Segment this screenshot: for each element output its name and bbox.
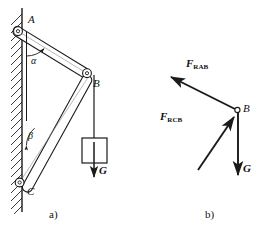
label-force-rcb: FRCB [160, 111, 182, 122]
label-weight-g-panel-a: G [99, 165, 107, 176]
caption-panel-a: a) [49, 209, 58, 220]
force-rab-arrow [171, 77, 237, 110]
fbd-node-b [235, 107, 240, 112]
label-angle-beta: β [28, 131, 33, 141]
figure-canvas [0, 0, 262, 236]
label-point-a: A [28, 14, 35, 25]
panel-b-free-body [171, 77, 240, 175]
label-force-rcb-subscript: RCB [167, 116, 182, 124]
joint-a [14, 27, 23, 36]
caption-panel-b: b) [205, 209, 214, 220]
label-fbd-point-b: B [243, 103, 250, 114]
joint-c [15, 178, 24, 187]
label-weight-g-panel-b: G [243, 163, 251, 174]
bar-ab-centerline [18, 31, 86, 73]
label-force-rab-subscript: RAB [193, 63, 208, 71]
force-rcb-arrow [198, 117, 234, 170]
joint-b [83, 69, 92, 78]
label-point-c: C [27, 186, 34, 197]
figure-root: A B C α β G FRAB FRCB G B a) b) [0, 0, 262, 236]
label-force-rab: FRAB [186, 58, 208, 69]
panel-a-mechanism [11, 8, 107, 214]
label-point-b: B [93, 78, 100, 89]
bar-ab [13, 26, 89, 77]
label-angle-alpha: α [31, 56, 36, 66]
